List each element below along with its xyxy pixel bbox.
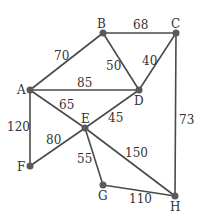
label-A: A	[16, 83, 26, 97]
weight-A-F: 120	[7, 120, 30, 134]
weight-A-B: 70	[54, 49, 69, 63]
weight-E-G: 55	[77, 152, 92, 166]
weight-A-E: 65	[59, 98, 74, 112]
node-H	[172, 193, 179, 200]
weight-C-H: 73	[179, 113, 194, 127]
edge-C-H	[175, 33, 176, 196]
weight-G-H: 110	[129, 192, 152, 206]
weighted-graph-diagram: 70 68 50 40 85 65 120 45 80 55 150 110 7…	[0, 0, 207, 220]
label-E: E	[81, 112, 90, 126]
edge-A-E	[30, 90, 85, 128]
node-D	[136, 87, 143, 94]
weight-C-D: 40	[142, 54, 157, 68]
node-F	[27, 163, 34, 170]
label-F: F	[17, 160, 25, 174]
weight-B-C: 68	[133, 18, 148, 32]
weight-B-D: 50	[106, 59, 121, 73]
edge-E-H	[85, 128, 175, 196]
node-G	[100, 182, 107, 189]
label-H: H	[170, 200, 180, 214]
weight-A-D: 85	[77, 76, 92, 90]
weight-E-F: 80	[46, 133, 61, 147]
weight-D-E: 45	[108, 111, 123, 125]
label-B: B	[97, 17, 106, 31]
label-D: D	[134, 94, 144, 108]
label-C: C	[171, 17, 180, 31]
node-A	[27, 87, 34, 94]
weight-E-H: 150	[125, 146, 148, 160]
label-G: G	[98, 189, 108, 203]
node-labels: A B C D E F G H	[16, 17, 180, 214]
